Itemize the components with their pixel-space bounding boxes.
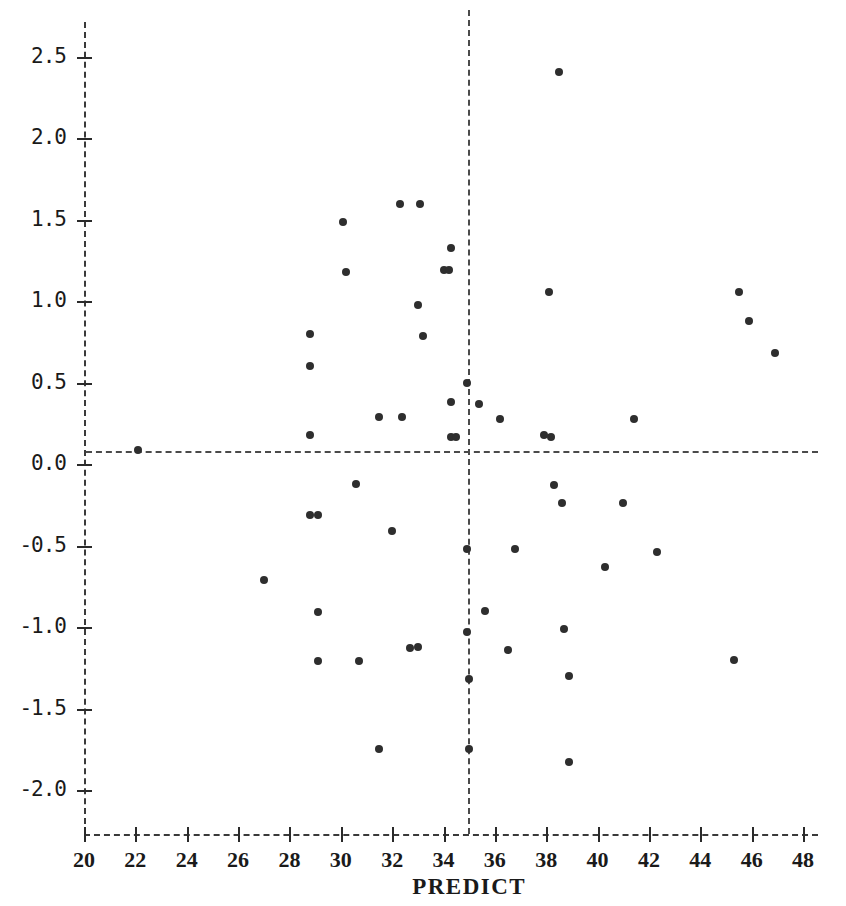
x-axis-line bbox=[84, 834, 818, 836]
scatter-point bbox=[630, 415, 638, 423]
y-axis-tick-label: 0.5 bbox=[0, 370, 66, 394]
scatter-point bbox=[355, 657, 363, 665]
scatter-point bbox=[558, 499, 566, 507]
x-axis-tick bbox=[84, 827, 86, 842]
scatter-point bbox=[730, 656, 738, 664]
y-axis-tick bbox=[77, 627, 92, 629]
scatter-point bbox=[375, 745, 383, 753]
x-axis-tick bbox=[135, 827, 137, 842]
y-axis-line bbox=[84, 22, 86, 834]
scatter-point bbox=[306, 362, 314, 370]
scatter-point bbox=[314, 657, 322, 665]
x-axis-tick bbox=[546, 827, 548, 842]
scatter-point bbox=[406, 644, 414, 652]
scatter-point bbox=[447, 398, 455, 406]
zero-reference-line bbox=[86, 451, 818, 453]
x-axis-tick bbox=[238, 827, 240, 842]
scatter-plot: 2.52.01.51.00.50.0-0.5-1.0-1.5-2.0 20222… bbox=[0, 0, 846, 906]
x-axis-tick bbox=[341, 827, 343, 842]
scatter-point bbox=[306, 431, 314, 439]
scatter-point bbox=[414, 301, 422, 309]
y-axis-tick bbox=[77, 709, 92, 711]
x-axis-tick-label: 40 bbox=[573, 847, 623, 873]
scatter-point bbox=[653, 548, 661, 556]
y-axis-tick bbox=[77, 138, 92, 140]
scatter-point bbox=[481, 607, 489, 615]
scatter-point bbox=[314, 511, 322, 519]
y-axis-tick-label: 2.5 bbox=[0, 44, 66, 68]
x-axis-tick bbox=[598, 827, 600, 842]
scatter-point bbox=[463, 545, 471, 553]
scatter-point bbox=[447, 244, 455, 252]
scatter-point bbox=[306, 330, 314, 338]
x-axis-tick-label: 26 bbox=[213, 847, 263, 873]
scatter-point bbox=[352, 480, 360, 488]
scatter-point bbox=[560, 625, 568, 633]
scatter-point bbox=[771, 349, 779, 357]
x-axis-tick-label: 46 bbox=[727, 847, 777, 873]
scatter-point bbox=[496, 415, 504, 423]
scatter-point bbox=[565, 758, 573, 766]
scatter-point bbox=[504, 646, 512, 654]
scatter-point bbox=[619, 499, 627, 507]
scatter-point bbox=[745, 317, 753, 325]
scatter-point bbox=[396, 200, 404, 208]
y-axis-tick-label: -1.0 bbox=[0, 614, 66, 638]
x-axis-tick bbox=[649, 827, 651, 842]
x-axis-tick bbox=[289, 827, 291, 842]
y-axis-tick bbox=[77, 220, 92, 222]
x-axis-tick-label: 24 bbox=[162, 847, 212, 873]
x-axis-tick-label: 30 bbox=[316, 847, 366, 873]
y-axis-tick-label: -0.5 bbox=[0, 533, 66, 557]
scatter-point bbox=[416, 200, 424, 208]
x-axis-tick bbox=[444, 827, 446, 842]
scatter-point bbox=[555, 68, 563, 76]
scatter-point bbox=[735, 288, 743, 296]
scatter-point bbox=[465, 675, 473, 683]
scatter-point bbox=[306, 511, 314, 519]
scatter-point bbox=[511, 545, 519, 553]
y-axis-tick-label: 1.5 bbox=[0, 207, 66, 231]
x-axis-tick-label: 42 bbox=[624, 847, 674, 873]
scatter-point bbox=[134, 446, 142, 454]
predict-reference-line bbox=[468, 10, 470, 834]
scatter-point bbox=[475, 400, 483, 408]
x-axis-tick bbox=[187, 827, 189, 842]
x-axis-tick bbox=[752, 827, 754, 842]
x-axis-tick-label: 48 bbox=[778, 847, 828, 873]
scatter-point bbox=[550, 481, 558, 489]
scatter-point bbox=[465, 745, 473, 753]
scatter-point bbox=[314, 608, 322, 616]
y-axis-tick bbox=[77, 790, 92, 792]
y-axis-tick bbox=[77, 464, 92, 466]
scatter-point bbox=[452, 433, 460, 441]
y-axis-tick bbox=[77, 301, 92, 303]
x-axis-tick bbox=[495, 827, 497, 842]
x-axis-tick-label: 32 bbox=[367, 847, 417, 873]
y-axis-tick-label: -1.5 bbox=[0, 696, 66, 720]
x-axis-tick-label: 44 bbox=[675, 847, 725, 873]
scatter-point bbox=[398, 413, 406, 421]
x-axis-title: PREDICT bbox=[379, 874, 559, 900]
scatter-point bbox=[445, 266, 453, 274]
scatter-point bbox=[260, 576, 268, 584]
scatter-point bbox=[463, 628, 471, 636]
x-axis-tick-label: 22 bbox=[110, 847, 160, 873]
scatter-point bbox=[565, 672, 573, 680]
x-axis-tick-label: 36 bbox=[470, 847, 520, 873]
scatter-point bbox=[419, 332, 427, 340]
scatter-point bbox=[601, 563, 609, 571]
y-axis-tick-label: 0.0 bbox=[0, 451, 66, 475]
scatter-point bbox=[547, 433, 555, 441]
y-axis-tick bbox=[77, 383, 92, 385]
x-axis-tick bbox=[803, 827, 805, 842]
scatter-point bbox=[342, 268, 350, 276]
y-axis-tick bbox=[77, 57, 92, 59]
x-axis-tick bbox=[392, 827, 394, 842]
y-axis-tick-label: -2.0 bbox=[0, 777, 66, 801]
x-axis-tick-label: 38 bbox=[521, 847, 571, 873]
scatter-point bbox=[388, 527, 396, 535]
y-axis-tick bbox=[77, 546, 92, 548]
x-axis-tick bbox=[700, 827, 702, 842]
scatter-point bbox=[545, 288, 553, 296]
